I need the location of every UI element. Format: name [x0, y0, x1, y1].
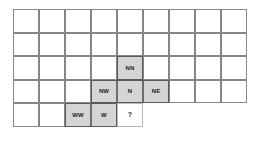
grid-cell-r3-c9: [221, 56, 247, 80]
grid-cell-r2-c5: [117, 33, 143, 57]
grid-cell-r4-c7: [169, 80, 195, 104]
grid-cell-r3-c3: [65, 56, 91, 80]
cell-w-label: W: [101, 112, 107, 118]
cell-query[interactable]: ?: [117, 103, 143, 127]
grid-cell-r1-c8: [195, 9, 221, 33]
grid-cell-r5-c1: [13, 103, 39, 127]
cell-nw[interactable]: NW: [91, 80, 117, 104]
cell-ne-label: NE: [152, 88, 161, 94]
grid-cell-r4-c2: [39, 80, 65, 104]
cell-nw-label: NW: [99, 88, 109, 94]
grid-cell-r3-c2: [39, 56, 65, 80]
grid-cell-r4-c3: [65, 80, 91, 104]
grid-cell-r5-c2: [39, 103, 65, 127]
cell-ww[interactable]: WW: [65, 103, 91, 127]
grid-cell-r4-c9: [221, 80, 247, 104]
grid-cell-r2-c1: [13, 33, 39, 57]
grid-cell-r2-c9: [221, 33, 247, 57]
cell-n-label: N: [128, 88, 132, 94]
grid-cell-r3-c6: [143, 56, 169, 80]
grid-cell-r3-c7: [169, 56, 195, 80]
grid-cell-r4-c8: [195, 80, 221, 104]
grid-cell-r1-c5: [117, 9, 143, 33]
cell-n[interactable]: N: [117, 80, 143, 104]
cell-query-label: ?: [128, 111, 132, 118]
grid-cell-r3-c1: [13, 56, 39, 80]
cell-ww-label: WW: [72, 112, 84, 118]
cell-nn-label: NN: [126, 65, 135, 71]
grid-cell-r3-c4: [91, 56, 117, 80]
cell-ne[interactable]: NE: [143, 80, 169, 104]
grid-cell-r2-c4: [91, 33, 117, 57]
grid-cell-r2-c2: [39, 33, 65, 57]
grid-cell-r2-c6: [143, 33, 169, 57]
grid-cell-r4-c1: [13, 80, 39, 104]
grid-cell-r1-c4: [91, 9, 117, 33]
grid-cell-r2-c8: [195, 33, 221, 57]
cell-nn[interactable]: NN: [117, 56, 143, 80]
cell-w[interactable]: W: [91, 103, 117, 127]
grid-cell-r1-c9: [221, 9, 247, 33]
direction-grid-figure: NNNWNNEWWW?: [0, 0, 258, 141]
grid-cell-r1-c2: [39, 9, 65, 33]
grid-cell-r1-c6: [143, 9, 169, 33]
grid-cell-r2-c7: [169, 33, 195, 57]
grid-cell-r2-c3: [65, 33, 91, 57]
grid-cell-r1-c3: [65, 9, 91, 33]
grid-cell-r3-c8: [195, 56, 221, 80]
grid-cell-r1-c7: [169, 9, 195, 33]
grid-cell-r1-c1: [13, 9, 39, 33]
